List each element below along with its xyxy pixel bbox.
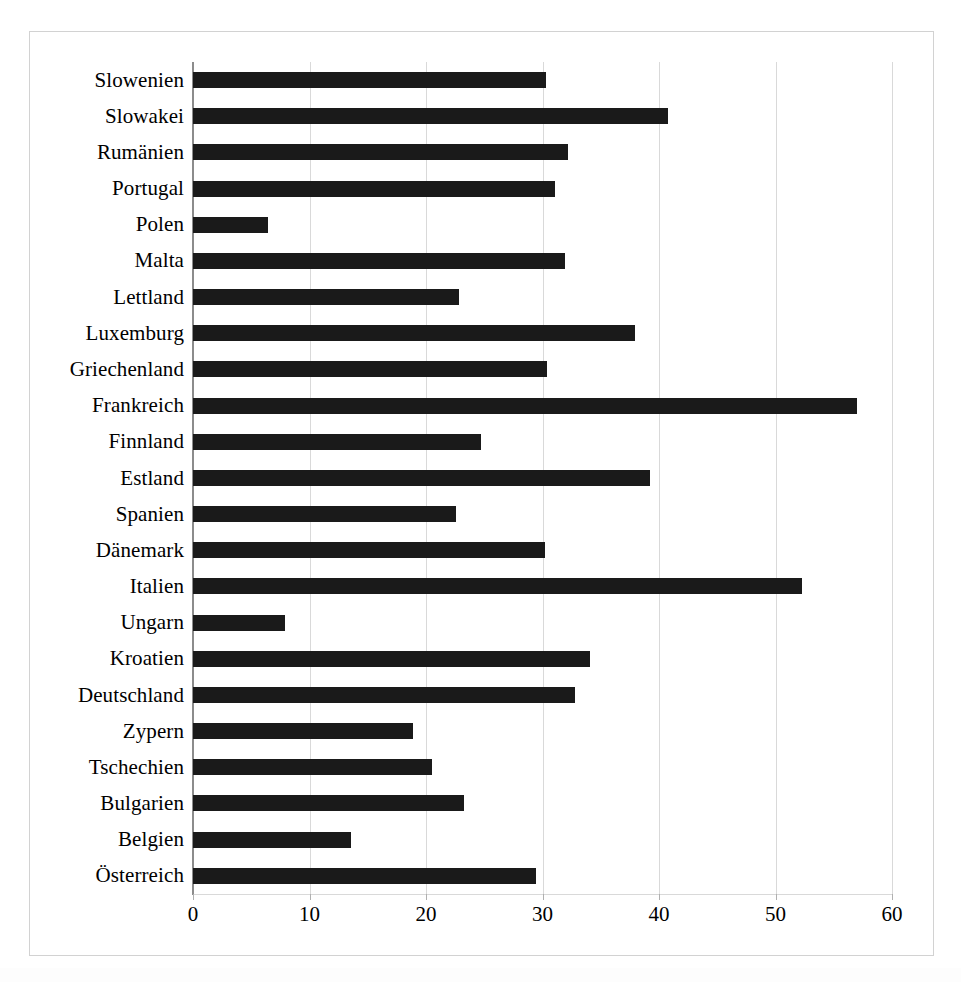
bar[interactable] bbox=[193, 434, 481, 450]
bar[interactable] bbox=[193, 832, 351, 848]
category-label: Rumänien bbox=[40, 134, 184, 170]
bar-row bbox=[193, 822, 892, 858]
bar[interactable] bbox=[193, 687, 575, 703]
bar[interactable] bbox=[193, 181, 555, 197]
bar-row bbox=[193, 785, 892, 821]
x-tick-mark-60 bbox=[892, 894, 893, 900]
bar[interactable] bbox=[193, 723, 413, 739]
x-tick-label-50: 50 bbox=[746, 902, 806, 927]
bar[interactable] bbox=[193, 361, 547, 377]
category-label: Österreich bbox=[40, 858, 184, 894]
bar-row bbox=[193, 388, 892, 424]
category-label: Tschechien bbox=[40, 749, 184, 785]
bar-row bbox=[193, 351, 892, 387]
bar[interactable] bbox=[193, 108, 668, 124]
plot-area bbox=[193, 62, 892, 894]
category-label: Belgien bbox=[40, 822, 184, 858]
bar[interactable] bbox=[193, 868, 536, 884]
scan-edge-artifact bbox=[0, 968, 961, 982]
bar-row bbox=[193, 98, 892, 134]
bar-row bbox=[193, 532, 892, 568]
bar-chart-figure: SlowenienSlowakeiRumänienPortugalPolenMa… bbox=[0, 0, 961, 982]
x-tick-mark-10 bbox=[310, 894, 311, 900]
category-label-column: SlowenienSlowakeiRumänienPortugalPolenMa… bbox=[40, 62, 184, 894]
x-tick-label-30: 30 bbox=[513, 902, 573, 927]
category-label: Estland bbox=[40, 460, 184, 496]
category-label: Slowakei bbox=[40, 98, 184, 134]
bar-row bbox=[193, 677, 892, 713]
bar-row bbox=[193, 713, 892, 749]
bar-row bbox=[193, 858, 892, 894]
bar[interactable] bbox=[193, 470, 650, 486]
x-tick-label-10: 10 bbox=[280, 902, 340, 927]
category-label: Italien bbox=[40, 568, 184, 604]
category-label: Portugal bbox=[40, 171, 184, 207]
bar[interactable] bbox=[193, 506, 456, 522]
bar-row bbox=[193, 496, 892, 532]
bar[interactable] bbox=[193, 289, 459, 305]
bar[interactable] bbox=[193, 72, 546, 88]
x-tick-label-0: 0 bbox=[163, 902, 223, 927]
category-label: Frankreich bbox=[40, 388, 184, 424]
bar-row bbox=[193, 568, 892, 604]
category-label: Bulgarien bbox=[40, 785, 184, 821]
bar[interactable] bbox=[193, 217, 268, 233]
category-label: Malta bbox=[40, 243, 184, 279]
gridline-60 bbox=[892, 62, 893, 894]
category-label: Spanien bbox=[40, 496, 184, 532]
bar-row bbox=[193, 243, 892, 279]
category-label: Dänemark bbox=[40, 532, 184, 568]
bar-row bbox=[193, 315, 892, 351]
bar[interactable] bbox=[193, 253, 565, 269]
bar[interactable] bbox=[193, 578, 802, 594]
bar[interactable] bbox=[193, 325, 635, 341]
bar[interactable] bbox=[193, 144, 568, 160]
x-tick-mark-40 bbox=[659, 894, 660, 900]
category-label: Griechenland bbox=[40, 351, 184, 387]
bar[interactable] bbox=[193, 759, 432, 775]
x-tick-mark-20 bbox=[426, 894, 427, 900]
category-label: Lettland bbox=[40, 279, 184, 315]
bar[interactable] bbox=[193, 795, 464, 811]
x-tick-mark-50 bbox=[776, 894, 777, 900]
category-label: Slowenien bbox=[40, 62, 184, 98]
bar-row bbox=[193, 460, 892, 496]
bar[interactable] bbox=[193, 651, 590, 667]
x-tick-label-40: 40 bbox=[629, 902, 689, 927]
category-label: Polen bbox=[40, 207, 184, 243]
bar-row bbox=[193, 424, 892, 460]
x-tick-mark-0 bbox=[193, 894, 194, 900]
bar-row bbox=[193, 134, 892, 170]
bar-row bbox=[193, 641, 892, 677]
bar-row bbox=[193, 171, 892, 207]
category-label: Finnland bbox=[40, 424, 184, 460]
bar-row bbox=[193, 207, 892, 243]
x-tick-mark-30 bbox=[543, 894, 544, 900]
bar[interactable] bbox=[193, 542, 545, 558]
bar-row bbox=[193, 62, 892, 98]
x-tick-label-20: 20 bbox=[396, 902, 456, 927]
x-tick-label-60: 60 bbox=[862, 902, 922, 927]
bar[interactable] bbox=[193, 398, 857, 414]
bar-row bbox=[193, 605, 892, 641]
bar-row bbox=[193, 749, 892, 785]
category-label: Luxemburg bbox=[40, 315, 184, 351]
bar[interactable] bbox=[193, 615, 285, 631]
category-label: Deutschland bbox=[40, 677, 184, 713]
category-label: Kroatien bbox=[40, 641, 184, 677]
bar-row bbox=[193, 279, 892, 315]
category-label: Zypern bbox=[40, 713, 184, 749]
category-label: Ungarn bbox=[40, 605, 184, 641]
